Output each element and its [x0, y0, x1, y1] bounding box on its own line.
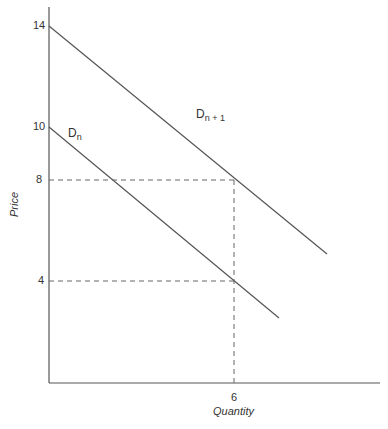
y-tick-8: 8 — [36, 173, 42, 185]
y-axis-label: Price — [8, 192, 20, 217]
curve-label-dn-main: D — [68, 126, 77, 140]
curve-label-dn1-sub: n + 1 — [205, 113, 225, 123]
curve-label-dn: Dn — [68, 126, 82, 142]
x-axis-label: Quantity — [213, 405, 254, 417]
demand-curve-dn — [49, 127, 279, 318]
chart-canvas — [0, 0, 388, 429]
y-tick-10: 10 — [33, 120, 45, 132]
demand-curve-dn1 — [49, 26, 327, 254]
y-tick-4: 4 — [38, 274, 44, 286]
curve-label-dn1-main: D — [196, 107, 205, 121]
curve-label-dn-sub: n — [77, 132, 82, 142]
y-tick-14: 14 — [33, 19, 45, 31]
x-tick-6: 6 — [231, 391, 237, 403]
curve-label-dn1: Dn + 1 — [196, 107, 225, 123]
